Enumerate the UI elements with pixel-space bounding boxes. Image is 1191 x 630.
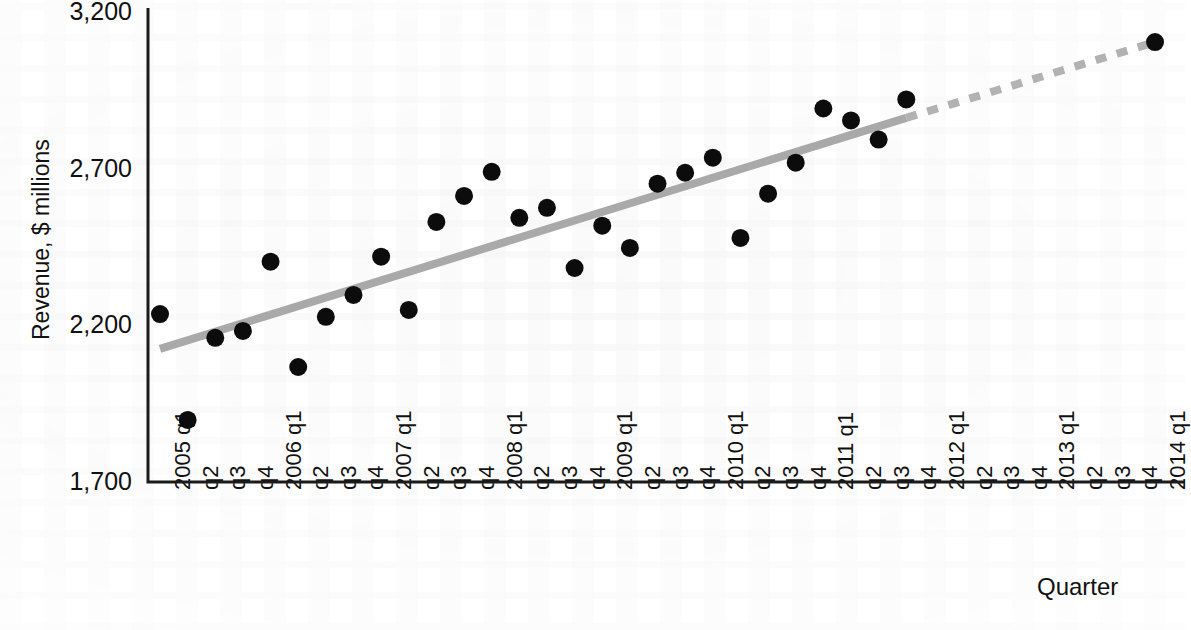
data-point — [566, 259, 584, 277]
data-point — [151, 305, 169, 323]
data-point — [234, 322, 252, 340]
data-point — [179, 411, 197, 429]
data-point — [759, 185, 777, 203]
data-point — [1146, 33, 1164, 51]
data-point — [206, 329, 224, 347]
data-point — [455, 187, 473, 205]
data-point — [538, 199, 556, 217]
data-point — [372, 248, 390, 266]
data-point-group — [151, 33, 1164, 429]
data-point — [676, 164, 694, 182]
data-point — [262, 253, 280, 271]
data-point — [317, 308, 335, 326]
data-point — [842, 111, 860, 129]
trend-line-forecast-dashed — [906, 42, 1155, 118]
data-point — [704, 149, 722, 167]
data-point — [649, 175, 667, 193]
data-point — [427, 213, 445, 231]
data-point — [483, 163, 501, 181]
data-point — [814, 100, 832, 118]
data-point — [510, 209, 528, 227]
data-point — [621, 239, 639, 257]
data-point — [289, 358, 307, 376]
data-point — [870, 131, 888, 149]
data-point — [787, 154, 805, 172]
data-point — [344, 286, 362, 304]
data-point — [897, 90, 915, 108]
trend-line-solid — [160, 118, 906, 349]
plot-axes — [148, 8, 1185, 482]
data-point — [731, 229, 749, 247]
data-point — [400, 301, 418, 319]
data-point — [593, 217, 611, 235]
